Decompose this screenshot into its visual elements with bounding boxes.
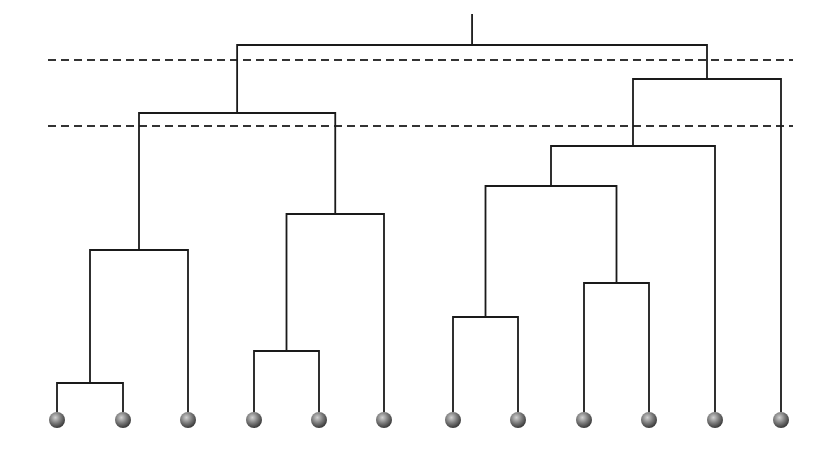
branch-d: [287, 214, 385, 412]
branch-h: [486, 186, 617, 317]
leaf-node-icon: [311, 412, 327, 428]
branch-c: [254, 351, 319, 412]
cut-lines: [48, 60, 793, 126]
leaf-node-icon: [641, 412, 657, 428]
branch-j: [633, 79, 781, 412]
leaf-node-icon: [707, 412, 723, 428]
leaf-node-icon: [180, 412, 196, 428]
leaf-node-icon: [246, 412, 262, 428]
branch-g: [584, 283, 649, 412]
leaf-node-icon: [49, 412, 65, 428]
leaf-node-icon: [115, 412, 131, 428]
leaf-node-icon: [576, 412, 592, 428]
dendrogram-svg: [0, 0, 836, 453]
branch-a: [57, 383, 123, 412]
branch-b: [90, 250, 188, 412]
branches: [57, 14, 781, 412]
leaf-node-icon: [773, 412, 789, 428]
branch-f: [453, 317, 518, 412]
leaf-node-icon: [376, 412, 392, 428]
leaf-nodes: [49, 412, 789, 428]
leaf-node-icon: [445, 412, 461, 428]
branch-e: [139, 113, 335, 250]
dendrogram-diagram: [0, 0, 836, 453]
leaf-node-icon: [510, 412, 526, 428]
